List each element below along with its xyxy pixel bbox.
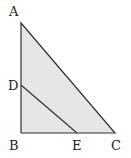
triangle-diagram: A D B E C [0,0,131,158]
triangle-abc [21,23,115,133]
label-a: A [8,4,19,19]
label-b: B [9,138,19,153]
label-c: C [111,138,121,153]
label-e: E [72,138,82,153]
label-d: D [8,78,18,93]
